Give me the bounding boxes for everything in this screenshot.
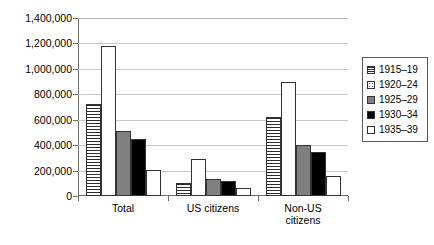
y-axis-tick-label: 1,200,000 [25, 38, 72, 49]
y-axis-tick-mark [73, 94, 78, 95]
legend-item-label: 1930–34 [379, 110, 418, 120]
y-axis-tick-label: 1,400,000 [25, 13, 72, 24]
bar [146, 170, 161, 196]
bar [176, 183, 191, 196]
bar [221, 181, 236, 196]
y-axis-tick-mark [73, 69, 78, 70]
y-axis-tick-mark [73, 196, 78, 197]
legend: 1915–191920–241925–291930–341935–39 [362, 57, 428, 142]
bar [266, 117, 281, 196]
x-axis-tick-mark [348, 196, 349, 201]
bar [131, 139, 146, 196]
y-axis-tick-mark [73, 171, 78, 172]
x-axis-category-label: Total [78, 202, 168, 214]
plot-area [78, 18, 348, 196]
x-axis-category-label: US citizens [168, 202, 258, 214]
bar [236, 188, 251, 196]
y-axis-tick-mark [73, 120, 78, 121]
bar [326, 176, 341, 196]
bar [191, 159, 206, 196]
legend-item-label: 1935–39 [379, 125, 418, 135]
legend-swatch-icon [367, 111, 375, 119]
bar [86, 104, 101, 196]
x-axis-category-label: Non-US citizens [258, 202, 348, 226]
y-axis-tick-label: 800,000 [34, 89, 72, 100]
bar-group [176, 18, 251, 196]
legend-swatch-icon [367, 96, 375, 104]
legend-item-label: 1925–29 [379, 95, 418, 105]
legend-item: 1925–29 [367, 92, 424, 107]
y-axis-tick-label: 400,000 [34, 140, 72, 151]
x-axis-tick-mark [168, 196, 169, 201]
legend-swatch-icon [367, 66, 375, 74]
legend-item: 1915–19 [367, 62, 424, 77]
legend-swatch-icon [367, 81, 375, 89]
legend-item: 1920–24 [367, 77, 424, 92]
legend-item-label: 1920–24 [379, 80, 418, 90]
bar [296, 145, 311, 196]
y-axis-tick-label: 600,000 [34, 114, 72, 125]
x-axis-tick-mark [258, 196, 259, 201]
y-axis-tick-mark [73, 145, 78, 146]
bar [311, 152, 326, 196]
bar-group [266, 18, 341, 196]
grouped-bar-chart: 0200,000400,000600,000800,0001,000,0001,… [0, 0, 434, 245]
legend-item: 1930–34 [367, 107, 424, 122]
legend-item-label: 1915–19 [379, 65, 418, 75]
y-axis-tick-mark [73, 18, 78, 19]
bar [206, 179, 221, 196]
bar [101, 46, 116, 196]
y-axis-tick-mark [73, 43, 78, 44]
x-axis-tick-mark [78, 196, 79, 201]
y-axis-tick-label: 200,000 [34, 165, 72, 176]
legend-swatch-icon [367, 126, 375, 134]
y-axis-labels: 0200,000400,000600,000800,0001,000,0001,… [0, 18, 72, 196]
bar-group [86, 18, 161, 196]
y-axis-tick-label: 0 [66, 191, 72, 202]
bar [116, 131, 131, 196]
legend-item: 1935–39 [367, 122, 424, 137]
legend-rows: 1915–191920–241925–291930–341935–39 [367, 62, 424, 137]
bar [281, 82, 296, 196]
y-axis-tick-label: 1,000,000 [25, 63, 72, 74]
